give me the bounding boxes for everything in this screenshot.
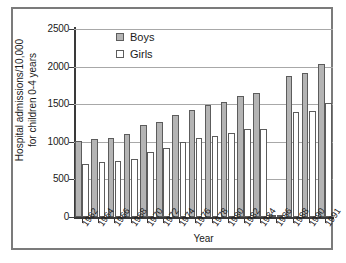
bar-girls-1982 — [244, 129, 251, 217]
bar-girls-1976 — [196, 138, 203, 217]
bar-girls-1984 — [260, 129, 267, 217]
y-axis-tick-mark — [69, 67, 74, 68]
bar-girls-1974 — [180, 142, 187, 217]
bar-girls-1978 — [212, 136, 219, 217]
y-axis-tick-mark — [69, 29, 74, 30]
bar-girls-1968 — [131, 159, 138, 217]
bar-boys-1980 — [221, 102, 228, 217]
bar-boys-1962 — [75, 141, 82, 217]
gridline — [74, 104, 333, 105]
bar-boys-1970 — [140, 125, 147, 217]
bar-boys-1988 — [286, 76, 293, 217]
gridline — [74, 67, 333, 68]
legend-label: Girls — [130, 47, 153, 61]
bar-boys-1974 — [172, 115, 179, 217]
bar-girls-1980 — [228, 133, 235, 217]
bar-girls-1991 — [325, 103, 332, 217]
bar-boys-1972 — [156, 122, 163, 218]
bar-boys-1968 — [124, 134, 131, 217]
y-axis-tick-mark — [69, 142, 74, 143]
bar-boys-1964 — [91, 139, 98, 217]
y-axis-tick-mark — [69, 179, 74, 180]
chart-legend: BoysGirls — [116, 30, 154, 64]
bar-boys-1990 — [302, 73, 309, 217]
bar-girls-1970 — [147, 152, 154, 217]
legend-label: Boys — [130, 30, 154, 44]
bar-girls-1990 — [309, 111, 316, 217]
bar-girls-1988 — [293, 112, 300, 217]
legend-swatch-boys-icon — [116, 33, 124, 41]
y-axis-tick-mark — [69, 104, 74, 105]
bar-boys-1966 — [108, 138, 115, 217]
y-axis-tick-mark — [69, 217, 74, 218]
x-axis-title: Year — [74, 233, 333, 245]
legend-swatch-girls-icon — [116, 50, 124, 58]
bar-boys-1982 — [237, 96, 244, 217]
chart-frame: 05001000150020002500 Hospital admissions… — [11, 7, 333, 250]
y-axis-title: Hospital admissions/10,000 for children … — [13, 15, 39, 185]
plot-area — [74, 29, 333, 217]
bar-girls-1972 — [163, 148, 170, 217]
bar-boys-1991 — [318, 64, 325, 217]
legend-item-girls: Girls — [116, 47, 154, 61]
legend-item-boys: Boys — [116, 30, 154, 44]
y-axis-tick-label: 0 — [23, 212, 69, 222]
gridline — [74, 29, 333, 30]
bar-boys-1984 — [253, 93, 260, 217]
bar-boys-1976 — [189, 110, 196, 217]
bar-boys-1978 — [205, 105, 212, 217]
